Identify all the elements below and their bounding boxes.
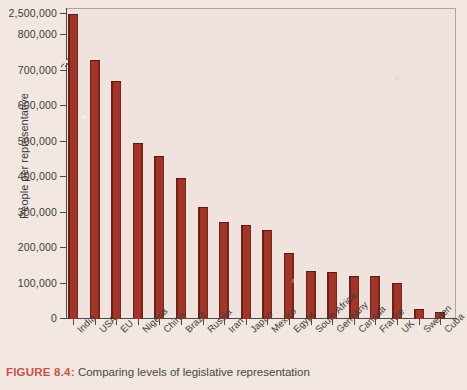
x-axis-tick: [375, 319, 376, 325]
figure-container: 0100,000200,000300,000400,000500,000600,…: [0, 0, 467, 356]
bar: [176, 178, 186, 319]
bar: [133, 143, 143, 319]
x-axis-tick: [311, 319, 312, 325]
x-axis-tick: [267, 319, 268, 325]
x-axis-tick: [419, 319, 420, 325]
x-axis-tick: [246, 319, 247, 325]
bar: [219, 222, 229, 319]
x-axis-tick: [289, 319, 290, 325]
y-axis-tick: [60, 283, 66, 284]
y-axis-tick: [60, 176, 66, 177]
y-axis-tick: [60, 105, 66, 106]
bar: [154, 156, 164, 319]
bar-series: [66, 8, 457, 319]
figure-caption: FIGURE 8.4: Comparing levels of legislat…: [6, 366, 310, 378]
x-axis-tick: [116, 319, 117, 325]
bar: [111, 81, 121, 319]
figure-number: FIGURE 8.4:: [6, 366, 75, 378]
bar: [414, 309, 424, 319]
bar: [241, 225, 251, 319]
x-axis-tick: [73, 319, 74, 325]
x-axis-tick: [332, 319, 333, 325]
x-axis-tick: [159, 319, 160, 325]
x-axis-tick-label: EU: [118, 318, 135, 335]
y-axis-tick-label: 800,000: [18, 29, 57, 39]
x-axis-tick: [397, 319, 398, 325]
y-axis-tick: [60, 247, 66, 248]
x-axis-tick: [203, 319, 204, 325]
y-axis-tick: [60, 13, 66, 14]
y-axis-tick-label: 100,000: [18, 278, 57, 288]
y-axis-tick: [60, 34, 66, 35]
x-axis-tick-label: UK: [399, 318, 416, 335]
y-axis-tick: [60, 70, 66, 71]
y-axis-tick-label: 0: [51, 313, 57, 323]
y-axis-tick: [60, 141, 66, 142]
bar: [262, 230, 272, 319]
x-axis-tick: [138, 319, 139, 325]
x-axis-tick: [224, 319, 225, 325]
x-axis-tick: [440, 319, 441, 325]
x-axis-tick: [181, 319, 182, 325]
figure-caption-text: Comparing levels of legislative represen…: [78, 366, 310, 378]
bar: [90, 60, 100, 319]
x-axis-tick: [354, 319, 355, 325]
y-axis-tick: [60, 318, 66, 319]
y-axis-title: People per representative: [18, 46, 30, 266]
y-axis-tick: [60, 212, 66, 213]
bar: [68, 14, 78, 319]
x-axis-tick: [95, 319, 96, 325]
y-axis-tick-label: 2,500,000: [8, 8, 57, 18]
bar: [198, 207, 208, 319]
